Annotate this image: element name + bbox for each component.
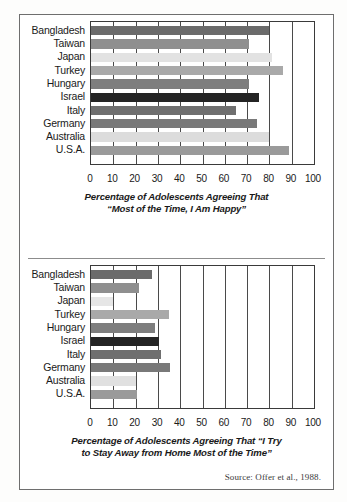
x-tick-label: 10 bbox=[107, 173, 118, 184]
chart-stay-away-category-labels: BangladeshTaiwanJapanTurkeyHungaryIsrael… bbox=[20, 268, 90, 401]
x-tick-label: 20 bbox=[129, 173, 140, 184]
bar-row bbox=[91, 53, 315, 62]
bar-australia bbox=[91, 376, 136, 385]
x-tick-label: 70 bbox=[241, 173, 252, 184]
chart-happy: BangladeshTaiwanJapanTurkeyHungaryIsrael… bbox=[20, 21, 333, 247]
x-tick-label: 0 bbox=[87, 417, 92, 428]
axis-title-line-1: Percentage of Adolescents Agreeing That bbox=[20, 191, 333, 203]
source-note: Source: Offer et al., 1988. bbox=[225, 472, 321, 482]
bar-row bbox=[91, 132, 315, 141]
chart-stay-away: BangladeshTaiwanJapanTurkeyHungaryIsrael… bbox=[20, 265, 333, 491]
bar-row bbox=[91, 66, 315, 75]
figure-page: BangladeshTaiwanJapanTurkeyHungaryIsrael… bbox=[0, 0, 347, 502]
category-label: Germany bbox=[20, 361, 90, 374]
bar-series bbox=[91, 22, 314, 164]
category-label: Israel bbox=[20, 90, 90, 103]
category-label: Italy bbox=[20, 104, 90, 117]
bar-row bbox=[91, 376, 315, 385]
x-tick-label: 60 bbox=[219, 417, 230, 428]
x-tick-label: 100 bbox=[305, 417, 321, 428]
chart-happy-plot-area bbox=[90, 21, 315, 165]
bar-israel bbox=[91, 93, 259, 102]
bar-row bbox=[91, 39, 315, 48]
bar-row bbox=[91, 310, 315, 319]
bar-row bbox=[91, 119, 315, 128]
category-label: Turkey bbox=[20, 308, 90, 321]
x-tick-label: 50 bbox=[196, 173, 207, 184]
category-label: Taiwan bbox=[20, 37, 90, 50]
x-tick-label: 70 bbox=[241, 417, 252, 428]
category-label: Australia bbox=[20, 130, 90, 143]
bar-row bbox=[91, 297, 315, 306]
category-label: Japan bbox=[20, 50, 90, 63]
bar-bangladesh bbox=[91, 26, 269, 35]
bar-hungary bbox=[91, 323, 155, 332]
bar-japan bbox=[91, 297, 113, 306]
bar-israel bbox=[91, 337, 159, 346]
x-tick-label: 40 bbox=[174, 173, 185, 184]
category-label: Germany bbox=[20, 117, 90, 130]
x-tick-label: 30 bbox=[152, 173, 163, 184]
category-label: Bangladesh bbox=[20, 24, 90, 37]
x-tick-label: 100 bbox=[305, 173, 321, 184]
x-tick-label: 60 bbox=[219, 173, 230, 184]
bar-bangladesh bbox=[91, 270, 152, 279]
x-tick-label: 20 bbox=[129, 417, 140, 428]
category-label: U.S.A. bbox=[20, 387, 90, 400]
x-tick-label: 30 bbox=[152, 417, 163, 428]
bar-row bbox=[91, 79, 315, 88]
axis-title-line-2: “Most of the Time, I Am Happy” bbox=[20, 203, 333, 215]
chart-happy-category-labels: BangladeshTaiwanJapanTurkeyHungaryIsrael… bbox=[20, 24, 90, 157]
chart-stay-away-x-axis-ticks: 0102030405060708090100 bbox=[90, 417, 315, 431]
bar-germany bbox=[91, 363, 170, 372]
bar-row bbox=[91, 363, 315, 372]
chart-happy-x-axis-ticks: 0102030405060708090100 bbox=[90, 173, 315, 187]
category-label: Turkey bbox=[20, 64, 90, 77]
category-label: Hungary bbox=[20, 321, 90, 334]
chart-divider bbox=[28, 258, 325, 259]
bar-japan bbox=[91, 53, 272, 62]
category-label: U.S.A. bbox=[20, 143, 90, 156]
category-label: Australia bbox=[20, 374, 90, 387]
chart-stay-away-axis-title: Percentage of Adolescents Agreeing That … bbox=[20, 435, 333, 458]
bar-row bbox=[91, 323, 315, 332]
bar-taiwan bbox=[91, 283, 139, 292]
bar-hungary bbox=[91, 79, 249, 88]
bar-turkey bbox=[91, 66, 283, 75]
x-tick-label: 80 bbox=[263, 173, 274, 184]
bar-turkey bbox=[91, 310, 169, 319]
x-tick-label: 0 bbox=[87, 173, 92, 184]
chart-stay-away-plot-area bbox=[90, 265, 315, 409]
category-label: Bangladesh bbox=[20, 268, 90, 281]
bar-row bbox=[91, 146, 315, 155]
x-tick-label: 90 bbox=[285, 173, 296, 184]
bar-italy bbox=[91, 350, 161, 359]
x-tick-label: 50 bbox=[196, 417, 207, 428]
bar-usa bbox=[91, 390, 137, 399]
bar-row bbox=[91, 390, 315, 399]
x-tick-label: 80 bbox=[263, 417, 274, 428]
bar-row bbox=[91, 283, 315, 292]
bar-series bbox=[91, 266, 314, 408]
bar-row bbox=[91, 270, 315, 279]
category-label: Japan bbox=[20, 294, 90, 307]
bar-row bbox=[91, 26, 315, 35]
x-tick-label: 90 bbox=[285, 417, 296, 428]
bar-row bbox=[91, 337, 315, 346]
bar-row bbox=[91, 106, 315, 115]
bar-australia bbox=[91, 132, 269, 141]
chart-happy-axis-title: Percentage of Adolescents Agreeing That“… bbox=[20, 191, 333, 214]
x-tick-label: 40 bbox=[174, 417, 185, 428]
x-tick-label: 10 bbox=[107, 417, 118, 428]
axis-title-line-2: to Stay Away from Home Most of the Time” bbox=[20, 447, 333, 459]
category-label: Hungary bbox=[20, 77, 90, 90]
bar-italy bbox=[91, 106, 236, 115]
category-label: Israel bbox=[20, 334, 90, 347]
category-label: Italy bbox=[20, 348, 90, 361]
bar-taiwan bbox=[91, 39, 249, 48]
axis-title-line-1: Percentage of Adolescents Agreeing That … bbox=[20, 435, 333, 447]
figure-frame: BangladeshTaiwanJapanTurkeyHungaryIsrael… bbox=[19, 14, 334, 490]
bar-usa bbox=[91, 146, 289, 155]
bar-row bbox=[91, 93, 315, 102]
bar-row bbox=[91, 350, 315, 359]
